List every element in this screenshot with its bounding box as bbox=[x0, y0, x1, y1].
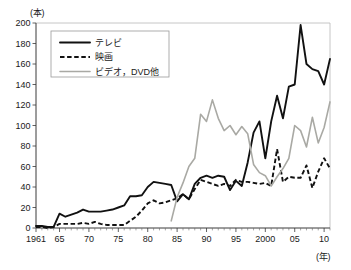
y-tick-label: 180 bbox=[15, 39, 30, 49]
x-tick-label: 2000 bbox=[255, 234, 275, 244]
x-tick-label: 80 bbox=[143, 234, 153, 244]
y-axis-ticks: 020406080100120140160180200 bbox=[15, 18, 36, 233]
y-tick-label: 200 bbox=[15, 18, 30, 28]
x-tick-label: 70 bbox=[84, 234, 94, 244]
x-axis-ticks: 19616570758085909520000510 bbox=[26, 228, 330, 244]
legend-label: 映画 bbox=[95, 51, 113, 62]
y-axis-unit-label: (本) bbox=[30, 6, 44, 19]
legend-label: テレビ bbox=[95, 38, 122, 48]
x-axis-unit-label: (年) bbox=[316, 250, 330, 263]
y-tick-label: 20 bbox=[20, 203, 30, 213]
x-tick-label: 95 bbox=[231, 234, 241, 244]
y-tick-label: 140 bbox=[15, 80, 30, 90]
chart-legend: テレビ映画ビデオ，DVD他 bbox=[51, 31, 169, 77]
x-tick-label: 65 bbox=[55, 234, 65, 244]
y-tick-label: 120 bbox=[15, 100, 30, 110]
data-series-line bbox=[36, 149, 330, 228]
chart-figure: (本) (年) 020406080100120140160180200 1961… bbox=[0, 0, 351, 270]
legend-label: ビデオ，DVD他 bbox=[95, 66, 159, 77]
x-tick-label: 90 bbox=[202, 234, 212, 244]
y-tick-label: 100 bbox=[15, 121, 30, 131]
x-tick-label: 10 bbox=[319, 234, 329, 244]
x-tick-label: 05 bbox=[290, 234, 300, 244]
line-chart-plot: 020406080100120140160180200 196165707580… bbox=[0, 0, 351, 270]
y-tick-label: 160 bbox=[15, 59, 30, 69]
x-tick-label: 1961 bbox=[26, 234, 46, 244]
y-tick-label: 0 bbox=[25, 223, 30, 233]
data-series-line bbox=[171, 100, 330, 221]
x-tick-label: 75 bbox=[113, 234, 123, 244]
y-tick-label: 60 bbox=[20, 162, 30, 172]
x-tick-label: 85 bbox=[172, 234, 182, 244]
y-tick-label: 40 bbox=[20, 182, 30, 192]
y-tick-label: 80 bbox=[20, 141, 30, 151]
